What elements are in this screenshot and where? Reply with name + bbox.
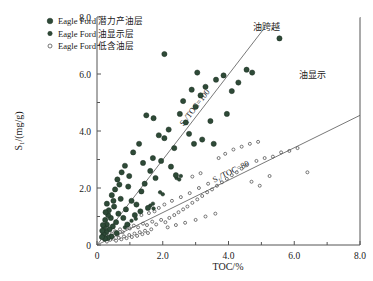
data-point (168, 164, 173, 169)
y-tick-label: 6.0 (79, 70, 91, 80)
data-point (193, 104, 198, 109)
data-point (152, 207, 156, 211)
legend-label: Eagle Ford 潜力产油层 (58, 15, 143, 26)
data-point (250, 70, 255, 75)
data-point (113, 220, 118, 225)
data-point (111, 198, 116, 203)
data-point (139, 189, 144, 194)
data-point (211, 141, 216, 146)
legend-label: Eagle Ford 低含油层 (58, 40, 134, 51)
data-point (116, 211, 121, 216)
data-point (123, 207, 128, 212)
data-point (99, 234, 104, 239)
data-point (208, 118, 213, 123)
chart-canvas: 02.04.06.08.0 02.04.06.08.0 S₁/TOC=100S₁… (0, 0, 373, 281)
data-point (134, 202, 139, 207)
data-point (117, 182, 122, 187)
chart-annotation: 油显示 (299, 69, 326, 80)
scatter-chart: 02.04.06.08.0 02.04.06.08.0 S₁/TOC=100S₁… (0, 0, 373, 281)
data-point (224, 111, 229, 116)
y-tick-label: 4.0 (79, 127, 91, 137)
y-tick-label: 0 (86, 241, 91, 251)
data-point (115, 177, 120, 182)
x-tick-label: 4.0 (223, 251, 235, 261)
data-point (150, 155, 155, 160)
data-point (277, 36, 282, 41)
data-point (200, 137, 205, 142)
data-point (125, 222, 130, 227)
data-point (186, 131, 191, 136)
data-point (172, 146, 177, 151)
chart-background (0, 0, 373, 281)
data-point (221, 73, 226, 78)
data-point (198, 93, 203, 98)
data-point (126, 184, 131, 189)
data-point (136, 141, 141, 146)
data-point (183, 120, 188, 125)
chart-annotation: 油跨越 (253, 21, 280, 32)
data-point (122, 163, 127, 168)
data-point (142, 181, 147, 186)
data-point (177, 111, 182, 116)
chart-legend: Eagle Ford 潜力产油层Eagle Ford 油显示层Eagle For… (47, 15, 143, 51)
y-axis-title: S₁/(mg/g) (13, 111, 25, 150)
x-tick-label: 2.0 (157, 251, 169, 261)
data-point (162, 51, 167, 56)
data-point (118, 196, 123, 201)
data-point (111, 204, 116, 209)
data-point (140, 160, 145, 165)
data-point (236, 80, 241, 85)
data-point (151, 202, 155, 206)
data-point (103, 210, 108, 215)
data-point (100, 228, 105, 233)
data-point (181, 98, 186, 103)
data-point (153, 175, 158, 180)
data-point (162, 136, 167, 141)
data-point (132, 212, 137, 217)
x-tick-label: 6.0 (288, 251, 300, 261)
x-axis-title: TOC/% (213, 261, 244, 272)
data-point (119, 170, 124, 175)
data-point (161, 192, 165, 196)
legend-marker (47, 18, 53, 24)
data-point (213, 77, 218, 82)
data-point (114, 230, 119, 235)
legend-marker (48, 31, 52, 35)
data-point (144, 113, 149, 118)
legend-label: Eagle Ford 油显示层 (58, 28, 134, 39)
data-point (203, 84, 208, 89)
data-point (189, 87, 194, 92)
data-point (109, 193, 114, 198)
data-point (156, 133, 161, 138)
x-tick-label: 0 (95, 251, 100, 261)
data-point (191, 141, 196, 146)
data-point (195, 70, 200, 75)
data-point (148, 168, 153, 173)
data-point (145, 205, 150, 210)
data-point (173, 173, 178, 178)
data-point (229, 89, 234, 94)
y-tick-label: 2.0 (79, 184, 91, 194)
data-point (159, 158, 164, 163)
data-point (112, 187, 117, 192)
data-point (103, 217, 108, 222)
data-point (151, 116, 156, 121)
data-point (131, 150, 136, 155)
data-point (177, 178, 181, 182)
data-point (127, 173, 132, 178)
data-point (138, 209, 143, 214)
x-tick-label: 8.0 (354, 251, 366, 261)
data-point (244, 67, 249, 72)
data-point (166, 127, 171, 132)
data-point (104, 201, 109, 206)
data-point (100, 222, 105, 227)
data-point (121, 215, 126, 220)
data-point (179, 174, 183, 178)
data-point (130, 219, 134, 223)
data-point (129, 198, 134, 203)
